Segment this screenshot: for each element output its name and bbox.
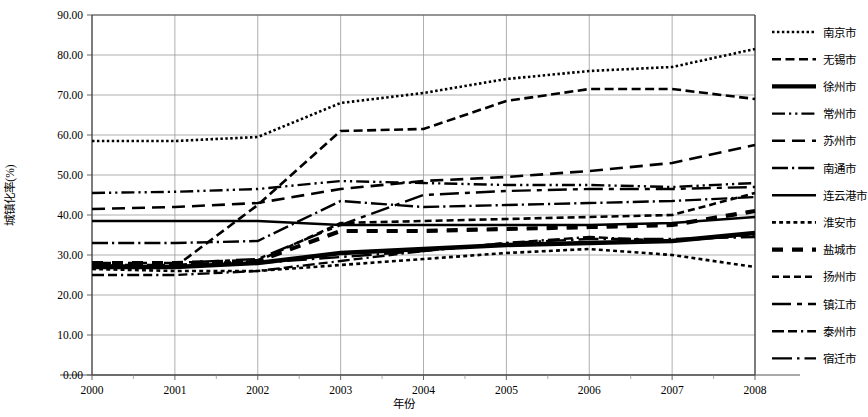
legend-label: 连云港市 — [823, 189, 867, 202]
legend-item-3[interactable]: 徐州市 — [772, 80, 856, 93]
x-tick-label: 2004 — [412, 384, 435, 396]
x-tick-label: 2000 — [81, 384, 104, 396]
legend-item-8[interactable]: 淮安市 — [772, 216, 856, 229]
chart-figure: 0.0010.0020.0030.0040.0050.0060.0070.008… — [0, 0, 868, 417]
y-tick-label: 10.00 — [57, 329, 83, 341]
legend-item-13[interactable]: 宿迁市 — [772, 352, 856, 365]
y-tick-label: 20.00 — [57, 289, 83, 301]
y-tick-label: 50.00 — [57, 169, 83, 181]
legend-item-10[interactable]: 扬州市 — [772, 270, 856, 283]
x-tick-label: 2002 — [246, 384, 269, 396]
x-axis-title: 年份 — [393, 397, 416, 410]
x-tick-label: 2008 — [744, 384, 767, 396]
x-tick-label: 2003 — [329, 384, 352, 396]
x-axis-tick-labels: 200020012002200320042005200620072008 — [81, 384, 767, 396]
legend-item-4[interactable]: 常州市 — [772, 107, 856, 120]
y-tick-label: 0.00 — [63, 369, 83, 381]
y-tick-label: 80.00 — [57, 49, 83, 61]
legend-label: 淮安市 — [823, 216, 856, 229]
x-tick-label: 2005 — [495, 384, 518, 396]
legend-label: 徐州市 — [823, 80, 856, 93]
y-tick-label: 70.00 — [57, 89, 83, 101]
legend-label: 泰州市 — [823, 325, 856, 338]
x-tick-label: 2006 — [578, 384, 601, 396]
y-axis-title: 城镇化率(%) — [3, 164, 17, 225]
x-tick-label: 2007 — [661, 384, 684, 396]
legend-item-11[interactable]: 镇江市 — [772, 298, 856, 311]
legend-label: 南通市 — [823, 162, 856, 175]
legend-label: 无锡市 — [823, 53, 856, 66]
urbanization-line-chart: 0.0010.0020.0030.0040.0050.0060.0070.008… — [0, 0, 868, 417]
legend-label: 镇江市 — [823, 298, 856, 311]
axis-ticks — [87, 15, 755, 380]
y-tick-label: 30.00 — [57, 249, 83, 261]
legend-label: 苏州市 — [823, 134, 856, 147]
chart-legend: 南京市无锡市徐州市常州市苏州市南通市连云港市淮安市盐城市扬州市镇江市泰州市宿迁市 — [772, 26, 867, 365]
gridlines — [92, 15, 755, 375]
legend-label: 常州市 — [823, 107, 856, 120]
legend-label: 扬州市 — [823, 270, 856, 283]
legend-item-2[interactable]: 无锡市 — [772, 53, 856, 66]
y-axis-tick-labels: 0.0010.0020.0030.0040.0050.0060.0070.008… — [57, 9, 83, 381]
legend-label: 盐城市 — [823, 243, 856, 256]
y-tick-label: 90.00 — [57, 9, 83, 21]
legend-item-5[interactable]: 苏州市 — [772, 134, 856, 147]
legend-label: 宿迁市 — [823, 352, 856, 365]
y-tick-label: 60.00 — [57, 129, 83, 141]
y-tick-label: 40.00 — [57, 209, 83, 221]
legend-item-12[interactable]: 泰州市 — [772, 325, 856, 338]
legend-item-6[interactable]: 南通市 — [772, 162, 856, 175]
legend-item-1[interactable]: 南京市 — [772, 26, 856, 39]
legend-item-9[interactable]: 盐城市 — [772, 243, 856, 256]
legend-item-7[interactable]: 连云港市 — [772, 189, 867, 202]
x-tick-label: 2001 — [163, 384, 186, 396]
legend-label: 南京市 — [823, 26, 856, 39]
